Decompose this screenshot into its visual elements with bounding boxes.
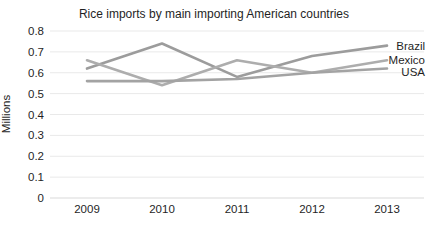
x-tick-label: 2010 <box>149 203 175 215</box>
y-tick-label: 0.1 <box>28 171 44 183</box>
x-tick-label: 2012 <box>299 203 325 215</box>
series-label-mexico: Mexico <box>389 54 425 66</box>
x-tick-label: 2011 <box>225 203 250 215</box>
y-tick-label: 0.8 <box>28 25 44 37</box>
y-tick-label: 0.6 <box>28 67 44 79</box>
rice-imports-line-chart: Rice imports by main importing American … <box>0 0 428 235</box>
y-tick-label: 0.2 <box>28 150 44 162</box>
series-label-usa: USA <box>401 66 425 78</box>
x-tick-label: 2013 <box>374 203 400 215</box>
series-label-brazil: Brazil <box>396 40 425 52</box>
y-tick-label: 0.5 <box>28 88 44 100</box>
plot-area: 00.10.20.30.40.50.60.70.8200920102011201… <box>0 0 428 235</box>
y-tick-label: 0 <box>38 192 44 204</box>
x-tick-label: 2009 <box>74 203 100 215</box>
y-tick-label: 0.4 <box>28 109 45 121</box>
y-tick-label: 0.7 <box>28 46 44 58</box>
y-tick-label: 0.3 <box>28 129 44 141</box>
